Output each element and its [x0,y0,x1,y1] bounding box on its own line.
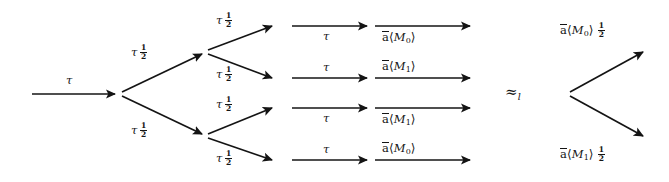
tau-symbol: τ [131,123,137,137]
message-symbol: M [572,23,584,37]
angle-close: ⟩ [589,147,594,161]
approx-glyph: ≈ [505,83,518,101]
a-bar-symbol: a [382,61,389,73]
angle-close: ⟩ [411,59,416,73]
probability-half: 12 [598,146,605,163]
a-bar-symbol: a [382,32,389,44]
label-l4-out-2: a⟨M1⟩ [382,60,416,74]
message-symbol: M [394,59,406,73]
a-bar-symbol: a [560,25,567,37]
label-l4-out-1: a⟨M0⟩ [382,31,416,45]
label-l2-branch-2: τ12 [216,66,232,83]
a-bar-symbol: a [382,114,389,126]
label-l4-out-4: a⟨M0⟩ [382,142,416,156]
label-l1-lower: τ12 [131,122,147,139]
label-l3-tau-1: τ [323,31,329,43]
probability-half: 12 [225,66,232,83]
label-right-upper: a⟨M0⟩12 [560,22,605,39]
angle-close: ⟩ [411,30,416,44]
label-l1-upper: τ12 [131,44,147,61]
label-root-tau: τ [66,75,72,87]
tau-symbol: τ [131,45,137,59]
probability-half: 12 [225,150,232,167]
label-right-lower: a⟨M1⟩12 [560,146,605,163]
edge-right-lower [570,96,643,136]
probability-half: 12 [225,12,232,29]
edge-l2-branch-1 [208,26,272,50]
edge-right-upper [570,52,643,92]
probability-half: 12 [140,44,147,61]
label-l4-out-3: a⟨M1⟩ [382,113,416,127]
label-l3-tau-4: τ [323,144,329,156]
tau-symbol: τ [216,13,222,27]
label-l3-tau-2: τ [323,62,329,74]
tau-symbol: τ [216,151,222,165]
probability-half: 12 [598,22,605,39]
label-l2-branch-3: τ12 [216,96,232,113]
angle-close: ⟩ [411,112,416,126]
message-symbol: M [394,30,406,44]
angle-close: ⟩ [589,23,594,37]
probability-half: 12 [225,96,232,113]
angle-close: ⟩ [411,141,416,155]
label-l2-branch-1: τ12 [216,12,232,29]
label-l3-tau-3: τ [323,113,329,125]
tau-symbol: τ [216,67,222,81]
message-symbol: M [394,141,406,155]
message-symbol: M [394,112,406,126]
equivalence-symbol: ≈l [505,85,521,101]
a-bar-symbol: a [560,149,567,161]
transition-tree-figure: τ τ12 τ12 τ12 τ12 τ12 τ12 τ τ τ τ a⟨M0⟩ … [0,0,669,182]
approx-subscript: l [518,91,521,102]
message-symbol: M [572,147,584,161]
a-bar-symbol: a [382,143,389,155]
label-l2-branch-4: τ12 [216,150,232,167]
probability-half: 12 [140,122,147,139]
tau-symbol: τ [216,97,222,111]
